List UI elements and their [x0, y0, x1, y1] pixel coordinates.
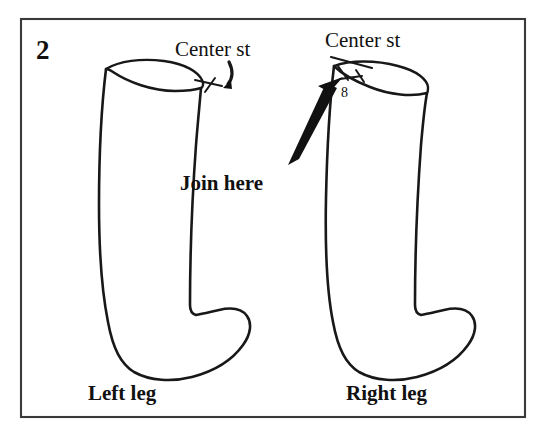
right-leg-caption: Right leg: [346, 381, 428, 405]
figure-number: 2: [36, 35, 50, 65]
boot-knitting-diagram: 2 Center st Center st: [0, 0, 538, 428]
figure-panel: 2 Center st Center st: [0, 0, 538, 428]
center-st-left-label: Center st: [175, 37, 250, 61]
center-st-right-label: Center st: [325, 28, 400, 52]
stitch-count-label: 8: [341, 85, 348, 100]
left-leg-caption: Left leg: [88, 381, 157, 405]
join-here-label: Join here: [180, 171, 263, 195]
